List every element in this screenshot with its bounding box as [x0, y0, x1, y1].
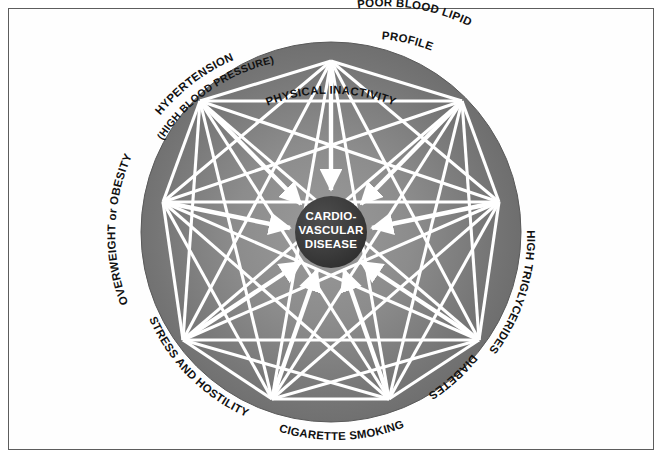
label-poor-blood-lipid-profile-1: POOR BLOOD LIPID — [356, 0, 473, 28]
label-poor-blood-lipid-profile-line-2: PROFILE — [381, 29, 435, 52]
center-label-line-2: VASCULAR — [298, 223, 364, 236]
label-poor-blood-lipid-profile-2: PROFILE — [381, 29, 435, 52]
risk-factor-web-diagram: CARDIO- VASCULAR DISEASE PHYSICAL INACTI… — [0, 0, 662, 458]
label-poor-blood-lipid-profile-line-1: POOR BLOOD LIPID — [356, 0, 473, 28]
center-label-line-1: CARDIO- — [306, 209, 357, 222]
label-overweight-or-obesity-text: OVERWEIGHT or OBESITY — [105, 151, 134, 306]
label-overweight-or-obesity: OVERWEIGHT or OBESITY — [105, 151, 134, 306]
figure-page: CARDIO- VASCULAR DISEASE PHYSICAL INACTI… — [0, 0, 662, 458]
diagram-svg: CARDIO- VASCULAR DISEASE PHYSICAL INACTI… — [0, 0, 662, 458]
center-label-line-3: DISEASE — [305, 237, 357, 250]
